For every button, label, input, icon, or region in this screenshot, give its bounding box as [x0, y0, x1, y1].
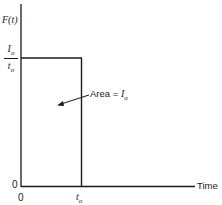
y-tick-io-over-to: Io to [4, 43, 18, 74]
area-arrow [61, 95, 89, 104]
area-annotation: Area = Io [90, 89, 128, 102]
area-annotation-text: Area = [90, 88, 121, 99]
x-tick-zero: 0 [18, 193, 24, 203]
y-tick-denominator: to [4, 60, 18, 74]
y-axis-label-text: F(t) [2, 14, 18, 25]
x-tick-to: to [76, 192, 82, 205]
y-axis-label: F(t) [2, 15, 18, 25]
x-axis-label: Time [197, 181, 218, 191]
y-tick-zero: 0 [12, 180, 18, 190]
pulse-diagram [0, 0, 222, 205]
fraction-bar [4, 58, 18, 59]
x-tick-to-sub: o [79, 197, 83, 205]
area-var-sub: o [124, 94, 128, 102]
arrow-head-icon [57, 101, 64, 106]
y-tick-numerator: Io [4, 43, 18, 57]
denominator-sub: o [11, 66, 15, 74]
numerator-sub: o [11, 49, 15, 57]
